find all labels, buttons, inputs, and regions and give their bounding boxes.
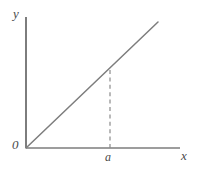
proportional-line (26, 22, 158, 148)
y-axis-label: y (13, 7, 19, 20)
figure-canvas: y x 0 a (0, 0, 201, 169)
graph-svg (0, 0, 201, 169)
origin-label: 0 (12, 138, 19, 151)
x-axis-label: x (181, 149, 187, 162)
x-tick-label-a: a (105, 151, 111, 163)
